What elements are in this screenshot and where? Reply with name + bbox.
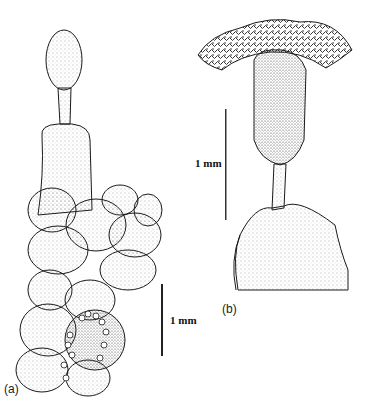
panel-label-b: (b) — [222, 302, 237, 316]
scale-bar-b — [225, 109, 227, 220]
scale-label-a: 1 mm — [170, 314, 197, 326]
scientific-illustration — [0, 0, 374, 406]
panel-label-a: (a) — [4, 382, 19, 396]
scale-bar-a — [161, 284, 163, 356]
panel-a-drawing — [16, 30, 162, 396]
scale-label-b: 1 mm — [195, 157, 222, 169]
panel-b-drawing — [198, 20, 352, 290]
